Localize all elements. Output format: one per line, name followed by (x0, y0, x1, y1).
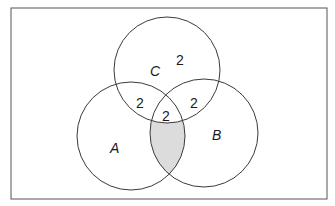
set-label-c: C (150, 63, 161, 79)
region-count-a-b-c: 2 (162, 108, 170, 124)
region-count-c-only: 2 (176, 52, 184, 68)
venn-diagram: C A B 2 2 2 2 (0, 0, 335, 206)
set-label-a: A (109, 140, 119, 156)
region-count-a-c: 2 (136, 95, 144, 111)
region-count-b-c: 2 (190, 95, 198, 111)
venn-diagram-figure: C A B 2 2 2 2 (0, 0, 335, 206)
set-label-b: B (212, 127, 221, 143)
